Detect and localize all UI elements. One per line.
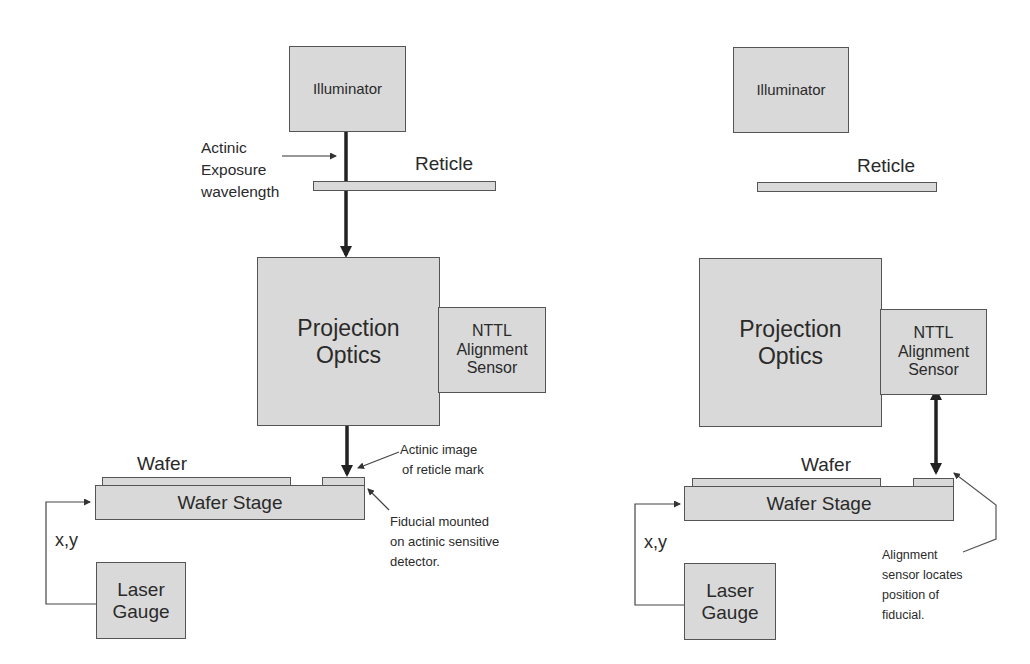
illuminator-label: Illuminator	[313, 80, 382, 97]
reticle-label: Reticle	[857, 155, 915, 178]
reticle	[313, 181, 496, 191]
projection-optics-box: Projection Optics	[699, 258, 882, 427]
xy-label: x,y	[55, 530, 78, 552]
illuminator-box: Illuminator	[733, 47, 849, 133]
projection-optics-box: Projection Optics	[257, 257, 440, 426]
illuminator-box: Illuminator	[289, 46, 406, 132]
annotation-actinic-image: Actinic image of reticle mark	[400, 440, 484, 480]
annotation-fiducial: Fiducial mounted on actinic sensitive de…	[390, 512, 499, 572]
wafer-label: Wafer	[801, 454, 851, 477]
reticle	[757, 182, 937, 192]
laser-gauge-box: Laser Gauge	[96, 562, 186, 639]
nttl-alignment-sensor-box: NTTL Alignment Sensor	[438, 307, 546, 393]
wafer-stage-box: Wafer Stage	[95, 485, 365, 520]
annotation-alignment: Alignment sensor locates position of fid…	[882, 545, 963, 625]
laser-gauge-box: Laser Gauge	[684, 563, 776, 640]
exposure-label: Actinic Exposure wavelength	[201, 137, 279, 203]
reticle-label: Reticle	[415, 153, 473, 176]
wafer-label: Wafer	[137, 453, 187, 476]
xy-label: x,y	[644, 532, 667, 554]
nttl-alignment-sensor-box: NTTL Alignment Sensor	[880, 309, 987, 395]
wafer-stage-box: Wafer Stage	[684, 486, 954, 521]
